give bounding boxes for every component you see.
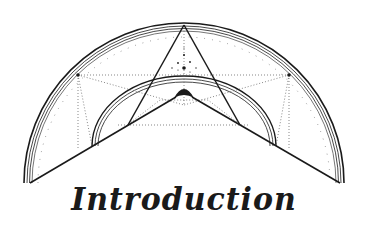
- page-title: Introduction: [0, 179, 368, 221]
- half-sun-icon: [174, 89, 194, 98]
- star-dots: [171, 47, 196, 72]
- v-shape: [30, 97, 340, 183]
